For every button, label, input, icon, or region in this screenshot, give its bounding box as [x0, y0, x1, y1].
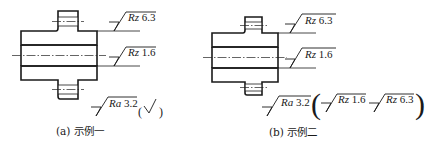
- roughness-symbol-rz1-6-b: Rz 1.6: [285, 48, 336, 68]
- roughness-symbol-rz6-3-a: Rz 6.3: [109, 11, 156, 31]
- svg-text:Rz 1.6: Rz 1.6: [337, 93, 366, 105]
- svg-text:Rz 6.3: Rz 6.3: [385, 93, 414, 105]
- panel-b: Rz 6.3 Rz 1.6 Ra 3.2 ( Rz 1.6 Rz 6.3 ) (…: [203, 14, 425, 138]
- caption-b: (b) 示例二: [269, 126, 317, 138]
- svg-text:Rz 6.3: Rz 6.3: [304, 14, 333, 26]
- svg-text:Ra 3.2: Ra 3.2: [280, 96, 310, 108]
- part-a-section-view: [12, 11, 106, 99]
- roughness-symbol-rz6-3-b: Rz 6.3: [285, 14, 336, 33]
- part-b-section-view: [203, 17, 287, 95]
- general-roughness-note-a: Ra 3.2 ( ): [91, 97, 163, 119]
- roughness-symbol-rz1-6-a: Rz 1.6: [109, 46, 156, 66]
- svg-text:Rz 6.3: Rz 6.3: [127, 11, 156, 23]
- surface-roughness-figure: Rz 6.3 Rz 1.6 Ra 3.2 ( ) (a) 示例一: [0, 0, 431, 150]
- basic-check-icon: [144, 99, 156, 113]
- svg-text:(: (: [311, 87, 321, 121]
- part-b-upper-wall-hatch: [212, 17, 278, 47]
- part-a-upper-wall-hatch: [21, 11, 97, 45]
- panel-a: Rz 6.3 Rz 1.6 Ra 3.2 ( ) (a) 示例一: [12, 11, 163, 137]
- svg-text:Ra 3.2: Ra 3.2: [108, 97, 138, 109]
- svg-text:Rz 1.6: Rz 1.6: [127, 46, 156, 58]
- svg-text:(: (: [138, 105, 142, 119]
- svg-text:): ): [415, 87, 425, 121]
- general-roughness-note-b: Ra 3.2 ( Rz 1.6 Rz 6.3 ): [262, 87, 425, 121]
- caption-a: (a) 示例一: [56, 125, 105, 137]
- svg-text:Rz 1.6: Rz 1.6: [304, 48, 333, 60]
- svg-text:): ): [159, 105, 163, 119]
